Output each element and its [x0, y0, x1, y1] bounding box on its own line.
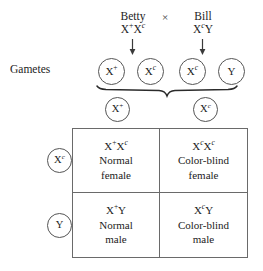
- cell-genotype: XcXc: [192, 139, 215, 154]
- punnett-cell-bottom-right: XcY Color-blind male: [160, 193, 247, 257]
- row-header-y: Y: [47, 213, 72, 238]
- gamete-circle-betty-x-c: Xc: [137, 58, 164, 85]
- punnett-grid: X+Xc Normal female XcXc Color-blind fema…: [72, 128, 248, 258]
- parent-betty-genotype: X+Xc: [103, 23, 163, 36]
- cell-genotype: X+Y: [106, 203, 126, 218]
- cell-phenotype-line2: female: [101, 168, 131, 183]
- arrow-down-betty-icon: [128, 39, 137, 59]
- row-header-label: Y: [56, 220, 64, 231]
- gamete-circle-bill-x-c: Xc: [179, 58, 206, 85]
- parent-bill-genotype: XcY: [173, 23, 233, 36]
- row-header-x-c: Xc: [47, 148, 72, 173]
- gamete-label: Xc: [187, 66, 198, 77]
- gamete-label: Y: [228, 66, 236, 77]
- column-header-x-c: Xc: [193, 97, 218, 122]
- cell-phenotype-line2: male: [193, 232, 214, 247]
- punnett-square-diagram: Betty X+Xc × Bill XcY Gametes X+ Xc Xc Y: [0, 0, 263, 271]
- cell-phenotype-line1: Color-blind: [178, 218, 229, 233]
- combining-brace: [96, 84, 238, 97]
- gamete-circle-betty-x-plus: X+: [98, 58, 125, 85]
- cell-phenotype-line2: female: [189, 168, 219, 183]
- column-header-label: X+: [112, 104, 124, 115]
- gametes-label: Gametes: [10, 63, 50, 75]
- cross-symbol: ×: [155, 11, 175, 23]
- cell-phenotype-line1: Normal: [99, 218, 133, 233]
- cell-phenotype-line1: Normal: [99, 153, 133, 168]
- gamete-circle-bill-y: Y: [218, 58, 245, 85]
- cell-genotype: X+Xc: [104, 139, 127, 154]
- punnett-cell-bottom-left: X+Y Normal male: [73, 193, 160, 257]
- arrow-down-bill-icon: [198, 39, 207, 59]
- cell-phenotype-line2: male: [105, 232, 126, 247]
- punnett-cell-top-right: XcXc Color-blind female: [160, 129, 247, 193]
- column-header-x-plus: X+: [105, 97, 130, 122]
- cell-phenotype-line1: Color-blind: [178, 153, 229, 168]
- punnett-cell-top-left: X+Xc Normal female: [73, 129, 160, 193]
- gamete-label: X+: [105, 66, 117, 77]
- cell-genotype: XcY: [194, 203, 213, 218]
- gamete-label: Xc: [145, 66, 156, 77]
- row-header-label: Xc: [54, 155, 65, 166]
- column-header-label: Xc: [200, 104, 211, 115]
